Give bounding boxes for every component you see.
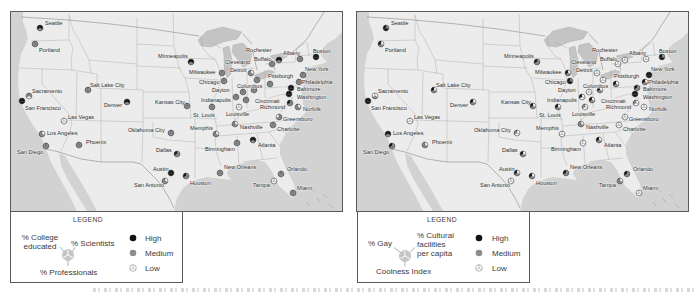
city-label: Tampa	[599, 182, 617, 188]
city-label: Salt Lake City	[90, 82, 125, 88]
city-marker	[636, 190, 642, 196]
city-label: Los Angeles	[393, 130, 424, 136]
city-label: Cleveland	[225, 59, 250, 65]
city-label: Los Angeles	[47, 130, 78, 136]
city-marker	[613, 81, 619, 87]
medium-level-icon	[476, 250, 483, 257]
legend-medium-label: Medium	[145, 249, 173, 258]
city-marker	[596, 137, 602, 143]
city-label: Boston	[659, 48, 676, 54]
city-marker	[240, 89, 246, 95]
city-marker	[529, 173, 535, 179]
city-label: Charlotte	[623, 126, 646, 132]
city-marker	[168, 170, 174, 176]
city-marker	[643, 56, 649, 62]
city-label: Greensboro	[629, 116, 659, 122]
city-marker	[19, 98, 25, 104]
city-marker	[641, 104, 647, 110]
city-label: Minneapolis	[158, 53, 188, 59]
city-label: Detroit	[576, 67, 593, 73]
city-marker	[183, 173, 189, 179]
city-label: Portland	[39, 47, 60, 53]
city-label: Milwaukee	[535, 69, 561, 75]
city-label: Atlanta	[604, 142, 622, 148]
city-marker	[209, 104, 215, 110]
city-label: Columbus	[583, 83, 608, 89]
city-marker	[213, 131, 219, 137]
city-label: Norfolk	[649, 106, 667, 112]
city-marker	[622, 114, 628, 120]
city-label: St. Louis	[539, 112, 561, 118]
city-label: Indianapolis	[201, 97, 231, 103]
city-marker	[407, 118, 413, 124]
city-label: Atlanta	[258, 142, 276, 148]
city-marker	[174, 151, 180, 157]
city-label: Oklahoma City	[128, 127, 165, 133]
city-marker	[514, 170, 520, 176]
city-label: Nashville	[586, 124, 609, 130]
legend-pie-icon	[399, 250, 410, 261]
city-marker	[624, 171, 630, 177]
city-label: New Orleans	[570, 164, 603, 170]
city-marker	[389, 143, 395, 149]
city-label: Richmond	[260, 104, 285, 110]
city-marker	[378, 41, 384, 47]
coolness-map: SeattlePortlandSacramentoSan FranciscoSa…	[356, 11, 689, 212]
city-label: Albany	[283, 50, 300, 56]
city-label: Philadelphia	[302, 79, 333, 85]
city-label: Washington	[297, 94, 326, 100]
city-label: Albany	[629, 50, 646, 56]
city-label: Indianapolis	[547, 97, 577, 103]
city-marker	[250, 137, 256, 143]
city-marker	[188, 59, 194, 65]
high-level-icon	[130, 235, 137, 242]
city-label: Las Vegas	[414, 114, 440, 120]
city-marker	[617, 178, 623, 184]
city-marker	[385, 131, 391, 137]
city-marker	[365, 98, 371, 104]
city-label: Kansas City	[155, 99, 185, 105]
city-label: Charlotte	[277, 126, 300, 132]
education-legend: LEGEND % College educated % Scientists %…	[10, 212, 183, 283]
legend-low-label: Low	[145, 264, 160, 273]
city-marker	[313, 54, 319, 60]
city-marker	[234, 140, 240, 146]
city-marker	[184, 103, 190, 109]
city-label: Baltimore	[297, 86, 321, 92]
city-label: Milwaukee	[189, 69, 215, 75]
legend-pie-icon	[62, 249, 73, 260]
city-marker	[267, 81, 273, 87]
city-label: Dallas	[502, 147, 518, 153]
city-label: Cleveland	[571, 59, 596, 65]
city-marker	[270, 122, 276, 128]
city-label: Orlando	[287, 166, 307, 172]
us-base-map	[11, 12, 342, 211]
city-marker	[232, 121, 238, 127]
city-marker	[221, 78, 227, 84]
city-label: San Antonio	[480, 182, 510, 188]
city-marker	[586, 89, 592, 95]
city-label: Phoenix	[432, 139, 452, 145]
city-label: San Antonio	[134, 182, 164, 188]
low-level-icon	[130, 265, 137, 272]
city-label: Pittsburgh	[614, 73, 639, 79]
city-marker	[534, 59, 540, 65]
city-label: Louisville	[226, 111, 249, 117]
city-marker	[589, 97, 595, 103]
city-marker	[248, 70, 254, 76]
city-marker	[288, 85, 294, 91]
city-label: Sacramento	[378, 88, 408, 94]
city-label: Denver	[104, 102, 122, 108]
city-marker	[300, 72, 306, 78]
city-label: Birmingham	[205, 146, 235, 152]
city-label: New Orleans	[224, 164, 257, 170]
city-label: Miami	[297, 185, 312, 191]
city-label: Greensboro	[283, 116, 313, 122]
city-marker	[76, 142, 82, 148]
low-level-icon	[476, 265, 483, 272]
city-marker	[168, 130, 174, 136]
city-marker	[233, 94, 239, 100]
city-label: Kansas City	[501, 99, 531, 105]
city-label: New York	[305, 66, 329, 72]
city-label: Orlando	[633, 166, 653, 172]
